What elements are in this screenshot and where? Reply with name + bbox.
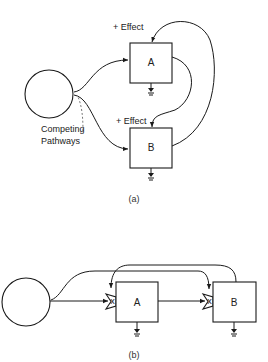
ground-icon-b — [148, 168, 154, 180]
diagram-b: x A x B (b) — [2, 265, 256, 360]
pathway-to-a — [74, 60, 128, 92]
ground-icon-b — [231, 322, 237, 336]
effect-label-b: + Effect — [116, 116, 147, 126]
annotation-line2: Pathways — [41, 136, 81, 146]
box-a-label: A — [148, 57, 155, 68]
ground-icon-a — [148, 83, 154, 95]
effect-b-to-a — [152, 21, 214, 146]
source-node-b — [2, 278, 50, 326]
effect-label-a: + Effect — [113, 22, 144, 32]
box-b-label: B — [231, 297, 238, 308]
figure: A B + Effect + Effect Competing Pathways… — [0, 0, 268, 362]
svg-text:x: x — [207, 296, 212, 306]
caption-b: (b) — [129, 350, 140, 360]
source-node-a — [25, 70, 73, 118]
ground-icon-a — [134, 322, 140, 336]
caption-a: (a) — [129, 194, 140, 204]
box-b-label: B — [148, 142, 155, 153]
svg-text:x: x — [110, 296, 115, 306]
box-a-label: A — [134, 297, 141, 308]
annotation-line1: Competing — [41, 124, 85, 134]
diagram-a: A B + Effect + Effect Competing Pathways… — [25, 21, 214, 204]
